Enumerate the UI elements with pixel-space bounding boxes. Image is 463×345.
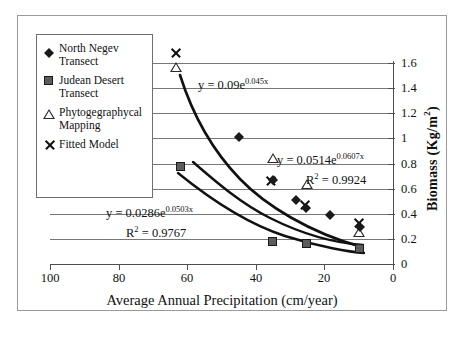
equation-middle: y = 0.0514e0.0607x bbox=[277, 151, 364, 168]
marker-north-negev-1 bbox=[234, 127, 244, 137]
marker-north-negev-4 bbox=[301, 198, 311, 208]
legend-item-fitted-model[interactable]: Fitted Model bbox=[43, 138, 148, 151]
equation-bottom-r2: R2 = 0.9767 bbox=[126, 224, 186, 241]
x-tick-0 bbox=[393, 264, 394, 270]
triangle-icon bbox=[43, 106, 57, 118]
legend-item-north-negev[interactable]: North Negev Transect bbox=[43, 42, 148, 67]
x-tick-label-0: 0 bbox=[390, 272, 396, 285]
equation-bottom-r2-post: = 0.9767 bbox=[139, 226, 187, 240]
chart-legend: North Negev Transect Judean Desert Trans… bbox=[36, 34, 153, 198]
x-icon bbox=[43, 138, 57, 150]
x-tick-60 bbox=[187, 264, 188, 270]
diamond-icon bbox=[43, 42, 57, 54]
x-axis-title: Average Annual Precipitation (cm/year) bbox=[50, 292, 394, 309]
marker-north-negev-3 bbox=[291, 190, 301, 200]
y-tick-label-0.4: 0.4 bbox=[401, 208, 417, 221]
equation-middle-exponent: 0.0607x bbox=[336, 151, 364, 161]
marker-phyto-mapping-1 bbox=[170, 62, 182, 72]
y-axis-title-main: Biomass (Kg/m bbox=[425, 116, 440, 211]
x-tick-40 bbox=[256, 264, 257, 270]
y-tick-label-0.8: 0.8 bbox=[401, 158, 417, 171]
equation-bottom: y = 0.0286e0.0503x bbox=[106, 204, 193, 221]
chart-figure: 1.6 1.4 1.2 1 0.8 0.6 0.4 0.2 0 Biomass … bbox=[0, 0, 463, 345]
y-tick-label-1.0: 1 bbox=[401, 132, 407, 145]
legend-label-fitted-model: Fitted Model bbox=[59, 138, 119, 151]
equation-middle-body: y = 0.0514e bbox=[277, 153, 336, 167]
y-axis-title-close: ) bbox=[425, 106, 440, 111]
square-icon bbox=[43, 74, 57, 86]
marker-judean-desert-3 bbox=[302, 239, 311, 248]
legend-label-phyto-mapping: Phytogegraphycal Mapping bbox=[59, 106, 142, 131]
equation-top: y = 0.09e0.045x bbox=[198, 76, 268, 93]
y-tick-label-1.6: 1.6 bbox=[401, 57, 417, 70]
equation-top-body: y = 0.09e bbox=[198, 78, 245, 92]
x-tick-label-40: 40 bbox=[250, 272, 263, 285]
legend-item-phyto-mapping[interactable]: Phytogegraphycal Mapping bbox=[43, 106, 148, 131]
x-tick-100 bbox=[50, 264, 51, 270]
y-tick-label-1.2: 1.2 bbox=[401, 107, 417, 120]
x-tick-label-80: 80 bbox=[113, 272, 126, 285]
legend-label-north-negev: North Negev Transect bbox=[59, 42, 119, 67]
marker-judean-desert-4 bbox=[355, 244, 364, 253]
marker-north-negev-6 bbox=[355, 217, 365, 227]
y-tick-label-0.2: 0.2 bbox=[401, 233, 417, 246]
marker-north-negev-2 bbox=[268, 170, 278, 180]
x-tick-20 bbox=[324, 264, 325, 270]
x-tick-label-100: 100 bbox=[41, 272, 60, 285]
legend-item-judean-desert[interactable]: Judean Desert Transect bbox=[43, 74, 148, 99]
equation-middle-r2: R2 = 0.9924 bbox=[306, 171, 366, 188]
y-tick-label-0.6: 0.6 bbox=[401, 183, 417, 196]
legend-label-judean-desert: Judean Desert Transect bbox=[59, 74, 124, 99]
equation-bottom-exponent: 0.0503x bbox=[165, 204, 193, 214]
equation-middle-r2-post: = 0.9924 bbox=[319, 173, 367, 187]
y-axis-title: Biomass (Kg/m2) bbox=[422, 106, 441, 211]
x-tick-label-20: 20 bbox=[318, 272, 331, 285]
figure-frame: 1.6 1.4 1.2 1 0.8 0.6 0.4 0.2 0 Biomass … bbox=[17, 15, 447, 311]
x-tick-label-60: 60 bbox=[181, 272, 194, 285]
x-axis-line bbox=[50, 264, 394, 265]
marker-north-negev-5 bbox=[325, 205, 335, 215]
x-tick-80 bbox=[119, 264, 120, 270]
marker-fitted-model-1 bbox=[170, 47, 182, 59]
y-tick-label-1.4: 1.4 bbox=[401, 82, 417, 95]
equation-bottom-body: y = 0.0286e bbox=[106, 206, 165, 220]
marker-judean-desert-1 bbox=[176, 162, 185, 171]
equation-top-exponent: 0.045x bbox=[245, 76, 268, 86]
marker-judean-desert-2 bbox=[268, 237, 277, 246]
y-axis-title-sup: 2 bbox=[422, 111, 432, 116]
y-tick-label-0: 0 bbox=[401, 258, 407, 271]
